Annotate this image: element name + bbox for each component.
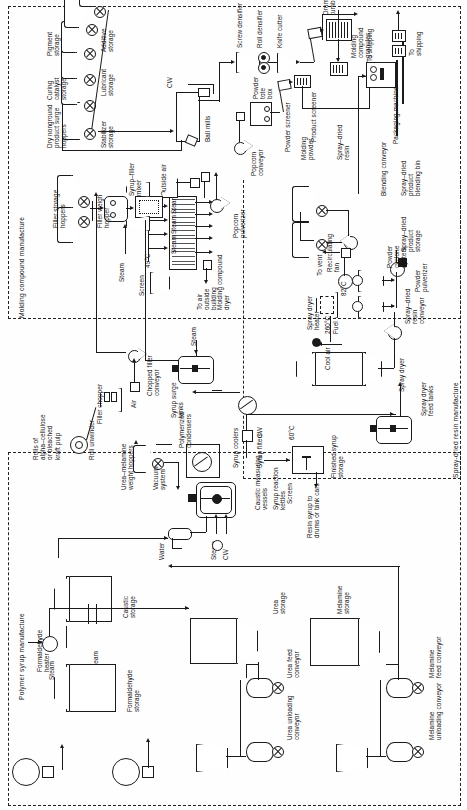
chopper-blade-b [111, 392, 117, 402]
label-recirculating-fan: Recirculating fan [326, 222, 340, 272]
label-cw-kettle: CW [222, 542, 229, 560]
melamine-unloading-motor [408, 764, 419, 773]
pipe-fh-to-kettle [49, 608, 189, 609]
pipe-urea-feed-left [246, 664, 247, 678]
label-molding-compound-dryer: Molding compound dryer [216, 238, 230, 310]
pipe-chopper-return-riser [96, 196, 97, 352]
urea-unloading-motor [268, 764, 279, 773]
pipe-screener-down [302, 86, 303, 108]
pipe-caustic-up [58, 538, 59, 558]
arrow-dryer-out-5 [209, 250, 213, 254]
arrow-powder-screener [289, 80, 293, 84]
pipe-feed-tank-to-dryer [400, 386, 401, 416]
cyclone-inlet-2 [352, 301, 363, 312]
arrow-fh-to-kettle [185, 606, 189, 610]
label-drum-tumbler: Drum tumbler [322, 0, 336, 15]
valve-filler-hopper-1 [78, 196, 90, 208]
label-to-shipping-packaging: To shipping [408, 16, 422, 56]
label-melamine-feed-conveyor: Melamine feed conveyor [428, 630, 442, 678]
pipe-fh-car [148, 742, 149, 768]
section-label-polymer-syrup: Polymer syrup manufacture [18, 520, 25, 700]
valve-pigment [86, 24, 98, 36]
pipe-urea-unload [226, 756, 246, 757]
pipe-air-to-blower [134, 362, 135, 382]
label-air-chopper: Air [130, 390, 137, 408]
pipe-water-in [190, 532, 206, 533]
label-vacuum-system: Vacuum system [152, 450, 166, 490]
caustic-tank-car [12, 758, 40, 786]
arrow-cool-air [318, 342, 322, 346]
pipe-syrup-to-surge [196, 392, 240, 393]
pipe-dryer-to-conveyor-v [394, 338, 395, 368]
package-bag-2 [392, 45, 406, 57]
label-resin-syrup-to-drums: Resin syrup to drums or tank cars [306, 476, 320, 538]
pipe-granules-up [338, 10, 339, 22]
label-vent-temp: 82°C [340, 274, 347, 296]
pipe-cw-drop [213, 84, 214, 94]
formaldehyde-pump [62, 648, 73, 657]
valve-lubricant [84, 48, 96, 60]
label-filler-chopper: Filler chopper [96, 380, 103, 424]
pipe-filter-down [246, 440, 247, 458]
condenser-frame [186, 444, 220, 478]
pipe-cyclone-outs-join [396, 272, 397, 308]
arrow-fh-car [146, 738, 150, 742]
label-lubricant-storage: Lubricant storage [100, 54, 114, 96]
pipe-sd-conveyor-riser [394, 312, 395, 326]
label-stabilizer-storage: Stabilizer storage [100, 106, 114, 148]
caustic-steam-coil-b [96, 604, 97, 624]
label-urea-storage: Urea storage [272, 576, 286, 614]
feed-tank-motor [370, 425, 377, 432]
pipe-popcorn-conveyor-up [239, 118, 240, 142]
pipe-knife-to-elevator [300, 62, 314, 63]
arrow-cyclone1-out [391, 278, 395, 282]
roll-densifier-dot-upper [261, 55, 266, 60]
pipe-dryer-exhaust [204, 180, 205, 198]
label-syrup-filler-mixer: Syrup–filler mixer [128, 144, 142, 196]
label-to-vent: To vent [316, 246, 323, 276]
pipe-vent-out [326, 252, 340, 253]
label-cool-air: Cool air [324, 336, 331, 370]
arrow-syrup-to-surge [192, 390, 196, 394]
arrow-feed-tank-to-dryer [398, 382, 402, 386]
valve-filler-hopper-2 [78, 216, 90, 228]
arrow-sdresin-to-packaging [362, 74, 366, 78]
label-caustic-measuring-vessels: Caustic measuring vessels [254, 452, 268, 510]
popcorn-pulverizer-out [221, 197, 230, 209]
label-steam-dryer-3: Steam [170, 228, 177, 254]
tote-port-b [264, 116, 270, 122]
caustic-steam-coil-a [88, 604, 89, 624]
melamine-rail-hopper [336, 744, 368, 772]
arrow-steam-mixer [123, 224, 127, 228]
weigh-hopper-dial-a [110, 200, 116, 206]
pipe-formaldehyde-up [66, 626, 67, 648]
label-caustic-storage: Caustic storage [122, 576, 136, 618]
urea-unloading-conveyor [246, 742, 274, 762]
label-urea-unloading-conveyor: Urea unloading conveyor [286, 690, 300, 740]
pipe-packages-to-shipping [398, 14, 399, 30]
dryer-damper-lower [203, 260, 212, 270]
label-powder-tote-box: Powder tote box [252, 63, 274, 99]
kettle-motor [188, 494, 196, 502]
label-melamine-unloading-conveyor: Melamine unloading conveyor [428, 684, 442, 740]
label-pigment-storage: Pigment storage [46, 14, 60, 56]
melamine-unloading-conveyor [386, 742, 414, 762]
melamine-feed-conveyor [386, 678, 414, 698]
ball-mill-drive [198, 88, 210, 97]
pipe-melamine-header [172, 566, 400, 567]
pipe-sdresin-riser [358, 76, 359, 194]
arrow-steam-surge [194, 350, 198, 354]
caustic-tank-car-valve [42, 766, 54, 778]
drum-tumbler [326, 19, 352, 41]
pipe-surge-out [212, 390, 222, 391]
label-to-shipping-granules: To shipping [366, 22, 373, 62]
pipe-weight-hopper-drop [178, 462, 179, 488]
label-screw-densifier: Screw densifier [236, 0, 243, 48]
label-syrup-coolers: Syrup coolers [232, 424, 239, 468]
arrow-into-finished-syrup [286, 458, 290, 462]
section-label-spray-dried-resin: Spray-dried resin manufacture [452, 278, 459, 478]
pipe-weight-hopper-out [164, 462, 178, 463]
arrow-dryer-out-1 [209, 200, 213, 204]
pipe-melamine-feed-riser [398, 662, 399, 680]
package-bag-1 [392, 30, 406, 42]
